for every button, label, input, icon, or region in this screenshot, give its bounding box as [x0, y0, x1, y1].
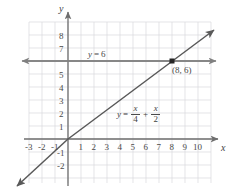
x-tick-label: 10 — [193, 143, 202, 152]
point-marker-8-6 — [170, 59, 175, 64]
x-tick-label: 2 — [92, 143, 97, 152]
x-tick-label: 4 — [118, 143, 123, 152]
x-tick-label: 8 — [170, 143, 175, 152]
fraction-numerator: x — [132, 104, 140, 113]
x-tick-label: 5 — [131, 143, 136, 152]
fraction-x-over-4: x 4 — [131, 104, 140, 124]
x-tick-label: 6 — [144, 143, 149, 152]
y-tick-label: 1 — [59, 123, 64, 132]
x-tick-label: 1 — [79, 143, 84, 152]
graph-canvas — [0, 0, 235, 192]
y-tick-label: -1 — [57, 149, 65, 158]
fraction-x-over-2: x 2 — [151, 104, 160, 124]
hline-label-equals: = — [94, 49, 99, 59]
x-tick-label: 9 — [183, 143, 188, 152]
point-coordinate-label: (8, 6) — [172, 66, 192, 75]
y-tick-label: 4 — [59, 84, 64, 93]
y-tick-label: -2 — [57, 162, 65, 171]
y-tick-label: 3 — [59, 97, 64, 106]
y-axis-label: y — [59, 4, 63, 14]
horizontal-line-equation-label: y=6 — [88, 50, 106, 59]
diagonal-line-equation-label: y = x 4 + x 2 — [117, 104, 161, 124]
coordinate-plane-figure: y x -3 -2 -1 1 2 3 4 5 6 7 8 9 10 8 7 5 … — [0, 0, 235, 192]
x-tick-label: -3 — [25, 143, 33, 152]
y-tick-label: 7 — [59, 45, 64, 54]
eq-equals: = — [123, 110, 128, 119]
hline-label-value: 6 — [101, 49, 106, 59]
x-axis-label: x — [221, 143, 225, 153]
eq-lhs: y — [117, 110, 121, 119]
y-tick-label: 5 — [59, 71, 64, 80]
x-tick-label: -2 — [38, 143, 46, 152]
x-tick-label: 7 — [157, 143, 162, 152]
x-tick-label: 3 — [105, 143, 110, 152]
grid-vertical-lines — [29, 22, 211, 183]
hline-label-variable: y — [88, 49, 92, 59]
fraction-denominator: 2 — [151, 115, 160, 124]
fraction-denominator: 4 — [131, 115, 140, 124]
y-tick-label: 2 — [59, 110, 64, 119]
eq-plus: + — [143, 110, 148, 119]
y-tick-label: 8 — [59, 32, 64, 41]
fraction-numerator: x — [152, 104, 160, 113]
